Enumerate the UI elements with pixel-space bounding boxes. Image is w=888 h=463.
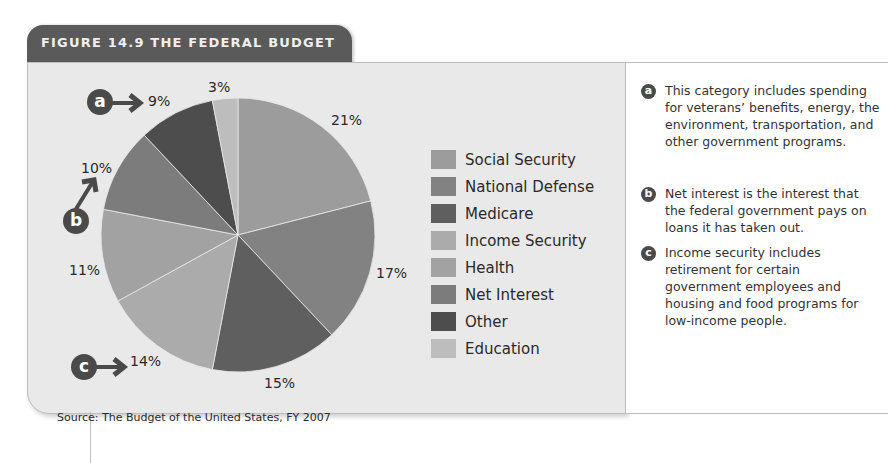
label-education: 3% <box>208 79 230 95</box>
legend-swatch <box>431 150 456 169</box>
arrow-right-icon <box>110 93 146 113</box>
label-social-security: 21% <box>331 112 362 128</box>
label-national-defense: 17% <box>376 265 407 281</box>
arrow-right-icon <box>94 357 130 377</box>
note-text: Income security includes retirement for … <box>665 244 880 329</box>
legend-item-national-defense: National Defense <box>431 173 594 200</box>
legend-label: Income Security <box>465 232 587 250</box>
legend-label: Education <box>465 340 540 358</box>
legend-item-health: Health <box>431 254 594 281</box>
legend-swatch <box>431 285 456 304</box>
legend-label: Medicare <box>465 205 533 223</box>
legend-swatch <box>431 231 456 250</box>
label-net-interest: 10% <box>81 160 112 176</box>
legend-item-medicare: Medicare <box>431 200 594 227</box>
chart-legend: Social Security National Defense Medicar… <box>431 146 594 362</box>
legend-swatch <box>431 258 456 277</box>
note-text: Net interest is the interest that the fe… <box>665 185 880 236</box>
legend-label: National Defense <box>465 178 594 196</box>
legend-label: Health <box>465 259 514 277</box>
legend-item-social-security: Social Security <box>431 146 594 173</box>
legend-label: Other <box>465 313 508 331</box>
label-health: 11% <box>69 262 100 278</box>
label-other: 9% <box>148 93 170 109</box>
label-medicare: 15% <box>264 375 295 391</box>
legend-item-education: Education <box>431 335 594 362</box>
legend-label: Net Interest <box>465 286 554 304</box>
marker-c-icon: c <box>641 246 656 261</box>
note-c: c Income security includes retirement fo… <box>665 244 880 329</box>
marker-a-icon: a <box>641 84 656 99</box>
legend-swatch <box>431 339 456 358</box>
legend-swatch <box>431 204 456 223</box>
arrow-up-right-icon <box>72 177 100 211</box>
legend-item-net-interest: Net Interest <box>431 281 594 308</box>
note-b: b Net interest is the interest that the … <box>665 185 880 236</box>
marker-b-icon: b <box>641 187 656 202</box>
marker-b-badge: b <box>63 208 89 234</box>
legend-swatch <box>431 177 456 196</box>
label-income-security: 14% <box>130 353 161 369</box>
source-caption: Source: The Budget of the United States,… <box>57 411 331 424</box>
note-text: This category includes spending for vete… <box>665 82 880 150</box>
note-a: a This category includes spending for ve… <box>665 82 880 150</box>
legend-label: Social Security <box>465 151 576 169</box>
legend-item-other: Other <box>431 308 594 335</box>
legend-item-income-security: Income Security <box>431 227 594 254</box>
legend-swatch <box>431 312 456 331</box>
